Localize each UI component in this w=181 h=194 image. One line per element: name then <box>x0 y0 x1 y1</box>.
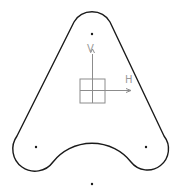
v-axis-label: V <box>87 44 94 54</box>
point-left-center[interactable] <box>35 146 37 148</box>
point-top-center[interactable] <box>91 33 93 35</box>
h-axis-label: H <box>125 75 133 85</box>
sketch-canvas[interactable] <box>0 0 181 194</box>
origin-axis-icon[interactable] <box>80 49 131 103</box>
point-right-center[interactable] <box>145 146 147 148</box>
point-bottom-center[interactable] <box>91 183 93 185</box>
